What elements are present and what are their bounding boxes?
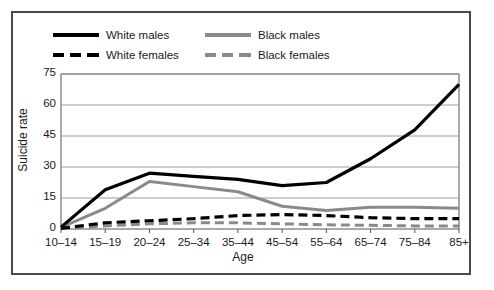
x-tick-label: 85+ xyxy=(449,236,469,248)
plot-area: 01530456075 10–1415–1920–2425–3435–4445–… xyxy=(13,13,473,277)
y-axis-label: Suicide rate xyxy=(16,108,30,171)
x-tick-label: 75–84 xyxy=(399,236,431,248)
x-tick-label: 45–54 xyxy=(266,236,298,248)
x-tick-label: 15–19 xyxy=(89,236,121,248)
figure-frame: White males Black males White females Bl… xyxy=(11,11,471,275)
x-axis-label: Age xyxy=(13,250,473,264)
x-tick-label: 10–14 xyxy=(45,236,77,248)
x-tick-label: 20–24 xyxy=(133,236,165,248)
x-tick-label: 55–64 xyxy=(310,236,342,248)
x-tick-label: 25–34 xyxy=(178,236,210,248)
x-tick-label: 65–74 xyxy=(355,236,387,248)
x-tick-label: 35–44 xyxy=(222,236,254,248)
x-axis-ticks: 10–1415–1920–2425–3435–4445–5455–6465–74… xyxy=(13,13,473,277)
